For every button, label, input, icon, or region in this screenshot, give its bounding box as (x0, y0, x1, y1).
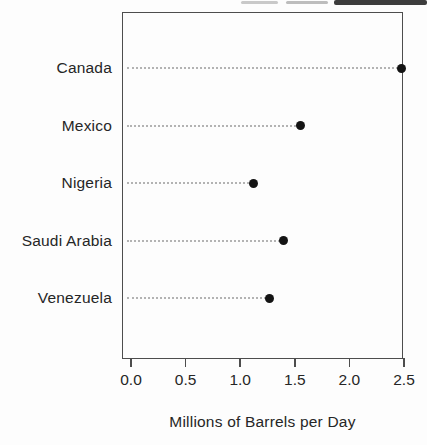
leader-line (127, 67, 402, 69)
x-axis-tick (349, 358, 351, 367)
x-axis-tick-label: 2.0 (327, 371, 371, 389)
data-point (249, 179, 258, 188)
x-axis-tick-label: 1.0 (218, 371, 262, 389)
plot-area (122, 12, 403, 359)
x-axis-tick-label: 0.0 (109, 371, 153, 389)
x-axis-tick-label: 2.5 (382, 371, 426, 389)
cropped-text-remnant (334, 0, 427, 5)
leader-line (127, 240, 284, 242)
x-axis-tick (239, 358, 241, 367)
category-label: Saudi Arabia (0, 232, 112, 250)
cropped-text-remnant (286, 1, 328, 4)
data-point (296, 121, 305, 130)
data-point (265, 294, 274, 303)
x-axis-tick (130, 358, 132, 367)
x-axis-tick-label: 0.5 (164, 371, 208, 389)
leader-line (127, 182, 253, 184)
leader-line (127, 125, 300, 127)
x-axis-tick-label: 1.5 (273, 371, 317, 389)
x-axis-tick (403, 358, 405, 367)
category-label: Venezuela (0, 289, 112, 307)
x-axis-tick (294, 358, 296, 367)
dot-plot-figure: CanadaMexicoNigeriaSaudi ArabiaVenezuela… (0, 0, 427, 445)
data-point (397, 64, 406, 73)
category-label: Mexico (0, 117, 112, 135)
x-axis-tick (185, 358, 187, 367)
leader-line (127, 297, 270, 299)
cropped-text-remnant (241, 1, 278, 4)
category-label: Canada (0, 59, 112, 77)
category-label: Nigeria (0, 174, 112, 192)
x-axis-title: Millions of Barrels per Day (122, 413, 403, 431)
